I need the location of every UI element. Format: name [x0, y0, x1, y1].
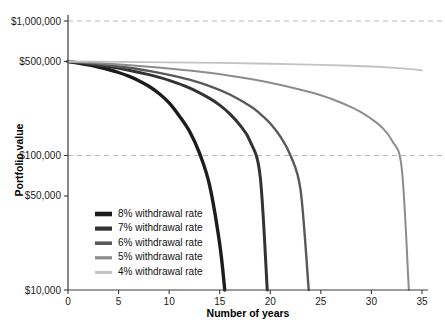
legend-label-8%: 8% withdrawal rate: [118, 208, 203, 219]
x-tick-label: 10: [164, 296, 176, 307]
x-tick-label: 5: [116, 296, 122, 307]
legend-label-7%: 7% withdrawal rate: [118, 222, 203, 233]
x-axis-title: Number of years: [207, 307, 290, 319]
chart-legend: 8% withdrawal rate7% withdrawal rate6% w…: [95, 208, 203, 277]
y-tick-label: $100,000: [19, 150, 61, 161]
x-axis-ticks: 05101520253035: [65, 290, 428, 307]
chart-plot-area: $10,000$50,000$100,000$500,000$1,000,000…: [0, 0, 445, 329]
portfolio-value-chart: $10,000$50,000$100,000$500,000$1,000,000…: [0, 0, 445, 329]
y-tick-label: $1,000,000: [11, 16, 61, 27]
legend-label-4%: 4% withdrawal rate: [118, 266, 203, 277]
y-axis-title: Portfolio value: [13, 123, 25, 196]
x-tick-label: 30: [366, 296, 378, 307]
gridlines: [68, 21, 442, 156]
axis-lines: [68, 15, 428, 290]
y-tick-label: $50,000: [25, 190, 62, 201]
legend-label-5%: 5% withdrawal rate: [118, 251, 203, 262]
x-tick-label: 15: [214, 296, 226, 307]
x-tick-label: 35: [416, 296, 428, 307]
legend-label-6%: 6% withdrawal rate: [118, 237, 203, 248]
y-tick-label: $10,000: [25, 285, 62, 296]
x-tick-label: 20: [265, 296, 277, 307]
x-tick-label: 25: [315, 296, 327, 307]
y-tick-label: $500,000: [19, 56, 61, 67]
x-tick-label: 0: [65, 296, 71, 307]
